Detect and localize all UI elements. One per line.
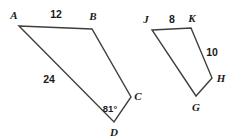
vertex-label-c: C <box>134 91 141 102</box>
vertex-label-k: K <box>188 13 195 24</box>
geometry-figure: ABCDJKHG122481081° <box>0 0 248 139</box>
figure-canvas <box>0 0 248 139</box>
angle-measure-d: 81° <box>103 104 117 114</box>
vertex-label-h: H <box>217 73 226 84</box>
vertex-label-j: J <box>143 14 149 25</box>
vertex-label-b: B <box>89 11 96 22</box>
vertex-label-d: D <box>110 127 118 138</box>
side-length-kh: 10 <box>206 47 218 58</box>
side-length-ad: 24 <box>43 74 55 85</box>
vertex-label-a: A <box>10 10 17 21</box>
vertex-label-g: G <box>192 102 200 113</box>
quadrilateral-jkhg <box>152 28 212 96</box>
side-length-jk: 8 <box>169 14 175 25</box>
side-length-ab: 12 <box>50 9 62 20</box>
